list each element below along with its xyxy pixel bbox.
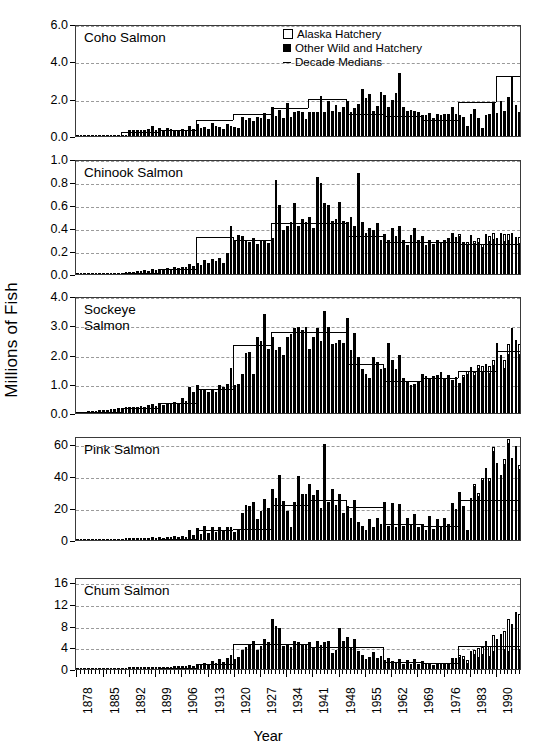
bar-wild-hatchery xyxy=(323,444,326,540)
bar-alaska-hatchery xyxy=(473,650,476,655)
x-tick-minor xyxy=(245,670,246,674)
bar-wild-hatchery xyxy=(226,253,229,274)
decade-median-riser xyxy=(158,403,159,408)
bar xyxy=(466,578,469,669)
bar-wild-hatchery xyxy=(293,641,296,669)
bar xyxy=(447,578,450,669)
bar-wild-hatchery xyxy=(245,240,248,275)
decade-median-riser xyxy=(121,408,122,412)
bar xyxy=(425,437,428,540)
bar xyxy=(485,578,488,669)
bar-wild-hatchery xyxy=(162,269,165,274)
y-tick-label: 60 xyxy=(54,438,68,452)
bar-wild-hatchery xyxy=(503,465,506,540)
bar-wild-hatchery xyxy=(83,539,86,540)
bar xyxy=(368,437,371,540)
panel-sockeye-salmon: 0.01.02.03.04.0Sockeye Salmon xyxy=(75,297,521,414)
bar-wild-hatchery xyxy=(500,362,503,413)
decade-median-riser xyxy=(421,378,422,381)
bar xyxy=(260,297,263,413)
bar-wild-hatchery xyxy=(278,347,281,413)
bar-wild-hatchery xyxy=(428,379,431,413)
bar-wild-hatchery xyxy=(335,650,338,669)
bar-wild-hatchery xyxy=(492,366,495,413)
bar xyxy=(428,160,431,274)
bar xyxy=(297,160,300,274)
bar-wild-hatchery xyxy=(473,109,476,136)
bar-wild-hatchery xyxy=(338,340,341,413)
decade-median-segment xyxy=(196,120,233,121)
bar-wild-hatchery xyxy=(507,355,510,414)
bar xyxy=(331,160,334,274)
bar xyxy=(192,437,195,540)
bar xyxy=(241,578,244,669)
x-tick-minor xyxy=(474,670,475,674)
bar-alaska-hatchery xyxy=(518,465,521,470)
bar xyxy=(177,25,180,136)
bar-alaska-hatchery xyxy=(492,233,495,240)
bar xyxy=(421,297,424,413)
bar xyxy=(301,437,304,540)
bar xyxy=(308,437,311,540)
bar-wild-hatchery xyxy=(443,240,446,275)
y-tick-label: 0.0 xyxy=(51,268,68,282)
bar xyxy=(80,578,83,669)
decade-median-segment xyxy=(346,507,383,508)
bar xyxy=(320,437,323,540)
bar-alaska-hatchery xyxy=(503,631,506,650)
bar-wild-hatchery xyxy=(237,384,240,413)
x-tick-minor xyxy=(88,670,89,674)
bar-alaska-hatchery xyxy=(488,478,491,482)
bar xyxy=(402,160,405,274)
bar-wild-hatchery xyxy=(188,387,191,413)
bar-wild-hatchery xyxy=(207,392,210,413)
y-tick-label: 2.0 xyxy=(51,93,68,107)
bar xyxy=(192,160,195,274)
x-axis: 1878188518921899190619131920192719341941… xyxy=(75,670,521,750)
bar-wild-hatchery xyxy=(200,665,203,669)
bar xyxy=(477,160,480,274)
bar-wild-hatchery xyxy=(117,668,120,669)
legend-label: Alaska Hatchery xyxy=(297,27,381,41)
bar xyxy=(372,160,375,274)
bar-wild-hatchery xyxy=(293,203,296,274)
bar xyxy=(256,437,259,540)
bar-wild-hatchery xyxy=(316,328,319,413)
y-tick xyxy=(70,541,75,542)
bar xyxy=(245,25,248,136)
bar xyxy=(252,437,255,540)
x-tick-minor xyxy=(178,670,179,674)
bar xyxy=(395,578,398,669)
bar-wild-hatchery xyxy=(365,374,368,413)
bar-wild-hatchery xyxy=(451,660,454,669)
bar-wild-hatchery xyxy=(477,497,480,540)
bar-wild-hatchery xyxy=(470,502,473,540)
bar xyxy=(432,578,435,669)
bar-wild-hatchery xyxy=(327,502,330,540)
bar-wild-hatchery xyxy=(293,112,296,136)
x-tick-label: 1990 xyxy=(501,687,515,714)
x-tick-label: 1976 xyxy=(449,687,463,714)
decade-median-riser xyxy=(158,539,159,540)
x-tick-minor xyxy=(170,670,171,674)
x-tick-minor xyxy=(80,670,81,674)
panel-title: Sockeye Salmon xyxy=(84,302,136,334)
bar-wild-hatchery xyxy=(357,522,360,540)
bar-wild-hatchery xyxy=(335,105,338,136)
y-tick xyxy=(70,275,75,276)
bar xyxy=(338,578,341,669)
x-tick-minor xyxy=(309,670,310,674)
bar-wild-hatchery xyxy=(267,119,270,136)
decade-median-segment xyxy=(421,378,458,379)
bar xyxy=(455,297,458,413)
bar-wild-hatchery xyxy=(518,244,521,274)
decade-median-riser xyxy=(308,99,309,108)
bar-alaska-hatchery xyxy=(455,237,458,239)
bar-wild-hatchery xyxy=(368,657,371,669)
x-tick-minor xyxy=(500,670,501,674)
bar xyxy=(245,160,248,274)
bar xyxy=(350,160,353,274)
bar-wild-hatchery xyxy=(117,539,120,540)
bar-wild-hatchery xyxy=(346,506,349,540)
bar xyxy=(481,25,484,136)
